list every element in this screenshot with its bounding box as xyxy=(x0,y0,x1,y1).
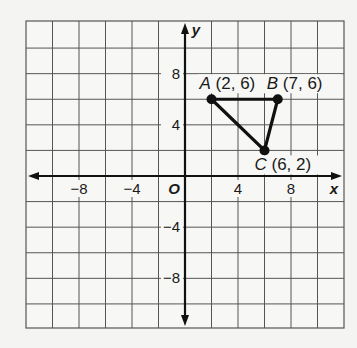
x-tick-label: 8 xyxy=(287,180,295,197)
origin-label: O xyxy=(168,180,180,197)
x-tick-label: −8 xyxy=(70,180,87,197)
y-tick-label: 4 xyxy=(172,116,180,133)
y-tick-label: −4 xyxy=(163,218,180,235)
y-axis-label: y xyxy=(191,21,201,38)
point-label-c: C (6, 2) xyxy=(255,155,312,174)
point-label-a: A (2, 6) xyxy=(199,74,256,93)
point-label-b: B (7, 6) xyxy=(267,74,323,93)
x-tick-label: 4 xyxy=(234,180,242,197)
y-tick-label: 8 xyxy=(172,65,180,82)
point-b xyxy=(273,94,283,104)
point-c xyxy=(260,145,270,155)
x-tick-label: −4 xyxy=(123,180,140,197)
point-a xyxy=(207,94,217,104)
y-tick-label: −8 xyxy=(163,269,180,286)
coordinate-plane: −8−44884−4−8Oxy A (2, 6)B (7, 6)C (6, 2) xyxy=(0,0,357,348)
x-axis-label: x xyxy=(329,180,339,197)
